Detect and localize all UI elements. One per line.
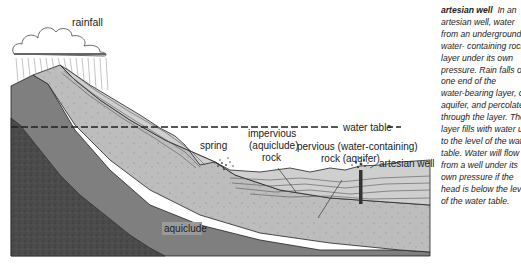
caption: artesian well In an artesian well, water… (441, 5, 521, 207)
caption-line: to the level of the water (441, 136, 521, 148)
impervious-label-line2: (aquiclude) (249, 140, 298, 151)
caption-line: water-bearing layer, or (441, 88, 521, 100)
caption-line-0: artesian well In an (441, 5, 521, 17)
caption-term: artesian well (441, 5, 493, 15)
impervious-label-line3: rock (262, 152, 282, 163)
caption-line: through the layer. The (441, 112, 521, 124)
caption-line: pressure. Rain falls on (441, 65, 521, 77)
impervious-label: impervious (248, 128, 296, 139)
pervious-label: pervious (water-containing) (297, 141, 418, 152)
caption-text: In an (497, 5, 516, 15)
caption-line: of the water table. (441, 196, 521, 208)
caption-line: one end of the (441, 76, 521, 88)
caption-line: from an underground (441, 29, 521, 41)
caption-line: from a well under its (441, 160, 521, 172)
pervious-label-line2: rock (aquifer) (321, 153, 380, 164)
water-table-label: water table (342, 122, 392, 133)
caption-line: table. Water will flow (441, 148, 521, 160)
caption-line: aquifer, and percolates (441, 100, 521, 112)
caption-line: head is below the level (441, 184, 521, 196)
spring-label: spring (200, 140, 227, 151)
rainfall-label: rainfall (72, 16, 103, 28)
artesian-well-label: artesian well (379, 158, 435, 169)
caption-line: layer under its own (441, 53, 521, 65)
caption-line: artesian well, water (441, 17, 521, 29)
aquiclude-label: aquiclude (164, 223, 207, 234)
caption-line: water- containing rock (441, 41, 521, 53)
caption-line: own pressure if the (441, 172, 521, 184)
cloud-icon (13, 28, 106, 56)
caption-line: layer fills with water up (441, 124, 521, 136)
